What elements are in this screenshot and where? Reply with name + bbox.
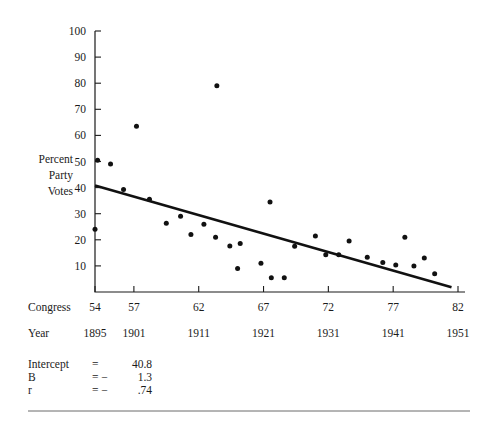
x-tick-label-congress-67: 67	[258, 301, 270, 313]
data-point	[380, 260, 385, 265]
data-point	[313, 233, 318, 238]
data-point	[214, 83, 219, 88]
data-point	[108, 162, 113, 167]
data-point	[121, 187, 126, 192]
stat-equals-r: = −	[92, 384, 108, 396]
y-tick-label-10: 10	[75, 260, 87, 272]
x-tick-label-congress-62: 62	[193, 301, 205, 313]
data-point	[188, 232, 193, 237]
x-tick-label-congress-54: 54	[89, 301, 101, 313]
data-point	[323, 252, 328, 257]
x-tick-label-year-1921: 1921	[252, 327, 275, 339]
scatter-plot-figure: 102030405060708090100 Percent Party Vote…	[0, 0, 490, 425]
y-axis-title-line-3: Votes	[48, 185, 74, 197]
data-point	[93, 227, 98, 232]
data-point	[393, 263, 398, 268]
data-point	[235, 266, 240, 271]
stat-value-r: .74	[138, 384, 153, 396]
y-tick-label-60: 60	[75, 129, 87, 141]
y-tick-label-30: 30	[75, 208, 87, 220]
y-tick-label-40: 40	[75, 182, 87, 194]
chart-canvas: 102030405060708090100 Percent Party Vote…	[0, 0, 490, 425]
data-point	[147, 197, 152, 202]
x-tick-label-year-1931: 1931	[317, 327, 340, 339]
x-axis-row-label-year: Year	[28, 327, 49, 339]
y-tick-label-80: 80	[75, 77, 87, 89]
stat-value-intercept: 40.8	[132, 358, 152, 370]
data-point	[238, 241, 243, 246]
x-tick-label-year-1895: 1895	[84, 327, 107, 339]
data-point	[213, 235, 218, 240]
data-point	[178, 214, 183, 219]
x-tick-marks	[95, 286, 458, 292]
data-point	[201, 222, 206, 227]
data-point	[268, 199, 273, 204]
stat-equals-b: = −	[92, 371, 108, 383]
y-tick-labels: 102030405060708090100	[69, 25, 87, 272]
data-point	[227, 244, 232, 249]
stat-equals-intercept: =	[92, 358, 99, 370]
y-tick-label-90: 90	[75, 51, 87, 63]
stat-label-intercept: Intercept	[28, 358, 70, 371]
statistics-block: Intercept=40.8B= −1.3r= −.74	[28, 358, 152, 396]
x-axis-rows: Congress54576267727782Year18951901191119…	[28, 301, 470, 339]
y-axis-title-line-2: Party	[49, 169, 74, 182]
x-tick-label-congress-72: 72	[323, 301, 335, 313]
x-tick-label-congress-77: 77	[387, 301, 399, 313]
x-tick-label-year-1911: 1911	[187, 327, 210, 339]
y-tick-label-20: 20	[75, 234, 87, 246]
data-point	[269, 275, 274, 280]
data-point	[411, 263, 416, 268]
x-tick-label-year-1941: 1941	[382, 327, 405, 339]
axis-lines	[95, 31, 465, 292]
x-tick-label-year-1951: 1951	[447, 327, 470, 339]
data-point	[365, 255, 370, 260]
data-point	[432, 271, 437, 276]
data-point	[422, 256, 427, 261]
axes-group	[95, 31, 465, 292]
data-point	[336, 252, 341, 257]
stat-label-r: r	[28, 384, 32, 396]
y-axis-title-line-1: Percent	[39, 153, 74, 165]
stat-value-b: 1.3	[138, 371, 153, 383]
data-point	[402, 235, 407, 240]
y-axis-title: Percent Party Votes	[39, 153, 74, 197]
stat-label-b: B	[28, 371, 36, 383]
data-point	[347, 239, 352, 244]
x-tick-label-congress-82: 82	[452, 301, 464, 313]
data-points-group	[93, 83, 438, 280]
data-point	[95, 158, 100, 163]
data-point	[282, 275, 287, 280]
data-point	[258, 261, 263, 266]
data-point	[134, 124, 139, 129]
y-tick-label-70: 70	[75, 103, 87, 115]
x-tick-label-year-1901: 1901	[122, 327, 145, 339]
y-tick-label-50: 50	[75, 156, 87, 168]
data-point	[292, 244, 297, 249]
data-point	[164, 221, 169, 226]
y-tick-label-100: 100	[69, 25, 87, 37]
x-axis-row-label-congress: Congress	[28, 301, 71, 314]
x-tick-label-congress-57: 57	[128, 301, 140, 313]
